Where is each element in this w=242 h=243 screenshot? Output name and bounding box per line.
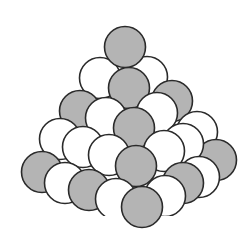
gray-sphere [122,187,163,228]
gray-sphere [105,27,146,68]
sphere-pyramid-diagram [0,0,242,243]
spheres-group [22,27,237,228]
